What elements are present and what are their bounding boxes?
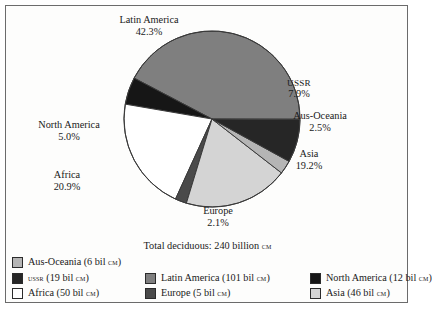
slice-label-ussr: USSR 7.9% (264, 78, 334, 100)
slice-label-name: Latin America (74, 14, 224, 26)
slice-label-name: Europe (182, 205, 254, 217)
slice-label-latin-america: Latin America 42.3% (74, 14, 224, 37)
legend-label-europe: Europe (5 bil cm) (161, 288, 230, 298)
slice-label-name: North America (14, 119, 124, 131)
slice-label-north-america: North America 5.0% (14, 119, 124, 142)
legend-label-unit: cm (86, 288, 96, 298)
slice-label-africa: Africa 20.9% (30, 169, 104, 192)
legend-label-unit: cm (217, 288, 227, 298)
legend-label-ussr: ussr (19 bil cm) (28, 273, 89, 283)
slice-label-percent: 2.5% (274, 122, 366, 134)
legend-item-latin[interactable]: Latin America (101 bil cm) (145, 273, 293, 284)
legend-item-ussr[interactable]: ussr (19 bil cm) (12, 273, 128, 284)
slice-label-name: USSR (264, 78, 334, 88)
legend-item-europe[interactable]: Europe (5 bil cm) (145, 288, 293, 299)
legend-swatch-asia (310, 288, 321, 299)
slice-label-percent: 5.0% (14, 131, 124, 143)
total-caption-text: Total deciduous: 240 billion (143, 240, 261, 251)
legend-row: Aus-Oceania (6 bil cm) (12, 255, 408, 270)
legend-item-north[interactable]: North America (12 bil cm) (310, 273, 432, 284)
legend-label-africa: Africa (50 bil cm) (28, 288, 99, 298)
slice-label-percent: 42.3% (74, 26, 224, 38)
total-caption: Total deciduous: 240 billion cm (6, 240, 409, 251)
legend-label-unit: cm (419, 273, 429, 283)
slice-label-europe: Europe 2.1% (182, 205, 254, 228)
legend-item-asia[interactable]: Asia (46 bil cm) (310, 288, 390, 299)
slice-label-percent: 19.2% (274, 160, 344, 172)
legend-row: Africa (50 bil cm)Europe (5 bil cm)Asia … (12, 286, 408, 301)
legend-swatch-north (310, 273, 321, 284)
slice-label-percent: 7.9% (264, 88, 334, 100)
slice-label-name: Asia (274, 148, 344, 160)
legend-label-unit: cm (76, 273, 86, 283)
legend-label-latin: Latin America (101 bil cm) (161, 273, 270, 283)
chart-frame: Latin America 42.3% USSR 7.9% Aus-Oceani… (5, 5, 408, 303)
slice-label-percent: 2.1% (182, 217, 254, 229)
slice-label-asia: Asia 19.2% (274, 148, 344, 171)
legend-item-aus[interactable]: Aus-Oceania (6 bil cm) (12, 257, 121, 268)
legend-label-unit: cm (377, 288, 387, 298)
legend-label-unit: cm (108, 257, 118, 267)
slice-label-aus-oceania: Aus-Oceania 2.5% (274, 110, 366, 133)
slice-label-name: Africa (30, 169, 104, 181)
legend-label-aus: Aus-Oceania (6 bil cm) (28, 257, 121, 267)
total-caption-unit: cm (262, 241, 272, 251)
legend: Aus-Oceania (6 bil cm) ussr (19 bil cm)L… (6, 255, 409, 303)
legend-label-north: North America (12 bil cm) (326, 273, 432, 283)
legend-swatch-africa (12, 288, 23, 299)
legend-swatch-ussr (12, 273, 23, 284)
legend-label-name: ussr (28, 273, 44, 283)
legend-label-asia: Asia (46 bil cm) (326, 288, 390, 298)
legend-row: ussr (19 bil cm)Latin America (101 bil c… (12, 271, 408, 286)
legend-item-africa[interactable]: Africa (50 bil cm) (12, 288, 128, 299)
slice-label-percent: 20.9% (30, 181, 104, 193)
legend-swatch-latin (145, 273, 156, 284)
legend-swatch-aus (12, 257, 23, 268)
legend-swatch-europe (145, 288, 156, 299)
legend-label-unit: cm (257, 273, 267, 283)
slice-label-name: Aus-Oceania (274, 110, 366, 122)
